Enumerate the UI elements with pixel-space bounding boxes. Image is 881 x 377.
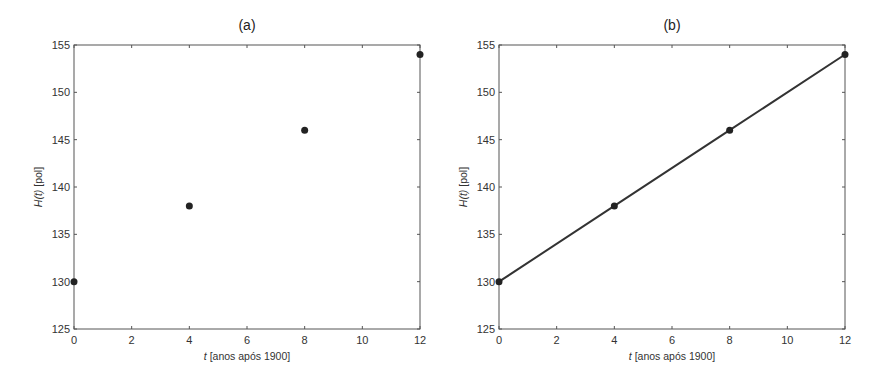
x-axis-label: t [anos após 1900] [629,350,715,362]
x-axis-label: t [anos após 1900] [204,350,290,362]
y-tick-label: 140 [52,181,70,193]
data-point [842,51,849,58]
x-tick-label: 10 [356,334,368,346]
x-tick-label: 0 [496,334,502,346]
data-point [71,278,78,285]
data-point [301,127,308,134]
y-tick-label: 150 [477,86,495,98]
x-tick-label: 12 [839,334,851,346]
x-tick-label: 0 [71,334,77,346]
plot-area-frame [74,45,420,329]
y-tick-label: 130 [52,276,70,288]
chart-title: (b) [663,17,680,33]
y-tick-label: 130 [477,276,495,288]
y-tick-label: 125 [477,323,495,335]
x-tick-label: 2 [554,334,560,346]
y-tick-label: 145 [52,134,70,146]
data-point [186,202,193,209]
x-tick-label: 8 [727,334,733,346]
chart-title: (a) [238,17,255,33]
x-tick-label: 10 [781,334,793,346]
x-tick-label: 8 [302,334,308,346]
y-axis-label: H(t) [pol] [457,167,469,207]
figure-canvas: (a)024681012125130135140145150155t [anos… [0,0,881,377]
data-point [611,202,618,209]
x-tick-label: 2 [129,334,135,346]
chart-panel-a: (a)024681012125130135140145150155t [anos… [32,17,426,362]
data-point [496,278,503,285]
y-tick-label: 145 [477,134,495,146]
chart-panel-b: (b)024681012125130135140145150155t [anos… [457,17,851,362]
x-tick-label: 6 [669,334,675,346]
y-tick-label: 135 [477,228,495,240]
y-tick-label: 140 [477,181,495,193]
x-tick-label: 4 [186,334,192,346]
y-tick-label: 150 [52,86,70,98]
y-tick-label: 135 [52,228,70,240]
x-tick-label: 4 [611,334,617,346]
y-axis-label: H(t) [pol] [32,167,44,207]
y-tick-label: 155 [52,39,70,51]
fit-line [499,54,845,281]
x-tick-label: 12 [414,334,426,346]
data-point [417,51,424,58]
y-tick-label: 125 [52,323,70,335]
data-point [726,127,733,134]
x-tick-label: 6 [244,334,250,346]
y-tick-label: 155 [477,39,495,51]
